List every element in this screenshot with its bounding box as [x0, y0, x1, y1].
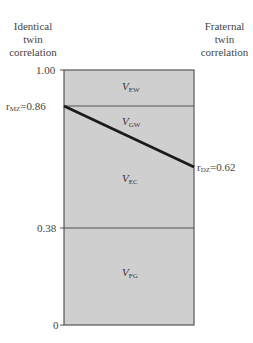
region-main: V — [122, 172, 129, 184]
region-sub: FG — [129, 272, 138, 280]
region-sub: EC — [129, 178, 138, 186]
region-sub: EW — [129, 86, 140, 94]
r-mz-label: rMZ=0.86 — [6, 100, 46, 115]
region-main: V — [122, 266, 129, 278]
tick-label-038: 0.38 — [37, 222, 56, 234]
variance-box — [64, 70, 194, 325]
region-label-vec: VEC — [122, 172, 138, 186]
region-label-vfg: VFG — [122, 266, 138, 280]
tick-label-0: 0 — [53, 319, 59, 331]
region-sub: GW — [129, 121, 141, 129]
region-main: V — [122, 80, 129, 92]
r-dz-value: =0.62 — [210, 161, 235, 173]
region-label-vgw: VGW — [122, 115, 140, 129]
region-main: V — [122, 115, 129, 127]
region-label-vew: VEW — [122, 80, 140, 94]
r-dz-label: rDZ=0.62 — [197, 161, 235, 176]
r-mz-value: =0.86 — [20, 100, 45, 112]
r-dz-subscript: DZ — [201, 166, 210, 174]
r-mz-subscript: MZ — [10, 105, 21, 113]
tick-label-100: 1.00 — [36, 64, 55, 76]
